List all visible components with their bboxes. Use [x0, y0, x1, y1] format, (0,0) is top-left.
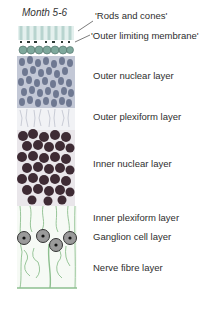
label-inner-nuclear-layer: Inner nuclear layer [93, 158, 172, 169]
outer-nuclear-layer-region [17, 56, 75, 108]
label-ganglion-cell-layer: Ganglion cell layer [93, 231, 171, 242]
label-inner-plexiform-layer: Inner plexiform layer [93, 212, 179, 223]
label-rods-and-cones: 'Rods and cones' [95, 10, 167, 21]
label-nerve-fibre-layer: Nerve fibre layer [93, 262, 163, 273]
inner-retina-region [17, 206, 77, 288]
rods-and-cones-region [18, 26, 74, 54]
inner-nuclear-layer-region [17, 129, 75, 206]
label-outer-plexiform-layer: Outer plexiform layer [93, 111, 181, 122]
label-outer-limiting-membrane: 'Outer limiting membrane' [91, 30, 199, 41]
outer-plexiform-layer-region [17, 108, 75, 130]
figure-title: Month 5-6 [22, 7, 67, 18]
label-outer-nuclear-layer: Outer nuclear layer [93, 70, 174, 81]
